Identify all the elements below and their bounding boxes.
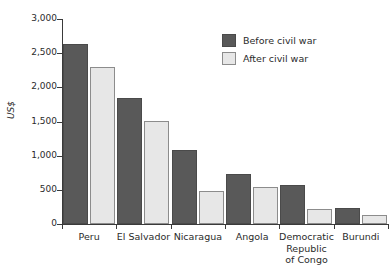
bar-after [199,191,224,224]
x-axis-tick [225,224,226,229]
bar-after [90,67,115,224]
bar-group [171,19,225,224]
legend-swatch-after-icon [222,52,236,65]
y-axis-tick-label: 2,500 [17,48,57,57]
legend-swatch-before-icon [222,34,236,47]
bar-chart: US$ 05001,0001,5002,0002,5003,000 PeruEl… [0,0,392,266]
category-label-line: Republic [274,243,338,255]
legend-label-after: After civil war [243,54,308,64]
bar-before [172,150,197,224]
bar-group [62,19,116,224]
x-axis-tick [171,224,172,229]
x-axis-tick [334,224,335,229]
y-axis-tick-label: 500 [17,185,57,194]
bar-after [253,187,278,224]
x-axis-tick [116,224,117,229]
legend-item-after: After civil war [222,52,316,65]
bar-before [117,98,142,224]
x-axis-tick [388,224,389,229]
bar-before [63,44,88,224]
x-axis-tick [62,224,63,229]
bar-group [334,19,388,224]
bar-before [280,185,305,224]
x-axis-category-label: Burundi [329,231,392,243]
bar-after [144,121,169,224]
legend-label-before: Before civil war [243,36,316,46]
category-label-line: of Congo [274,254,338,266]
bar-after [362,215,387,224]
bar-group [116,19,170,224]
y-axis-tick-label: 1,000 [17,151,57,160]
bar-after [307,209,332,224]
bar-before [335,208,360,224]
y-axis-tick-label: 2,000 [17,82,57,91]
chart-legend: Before civil war After civil war [222,34,316,70]
y-axis-tick-label: 0 [17,219,57,228]
y-axis-tick-label: 1,500 [17,117,57,126]
category-label-line: Burundi [329,231,392,243]
legend-item-before: Before civil war [222,34,316,47]
bar-before [226,174,251,224]
y-axis-tick-label: 3,000 [17,14,57,23]
x-axis-tick [279,224,280,229]
